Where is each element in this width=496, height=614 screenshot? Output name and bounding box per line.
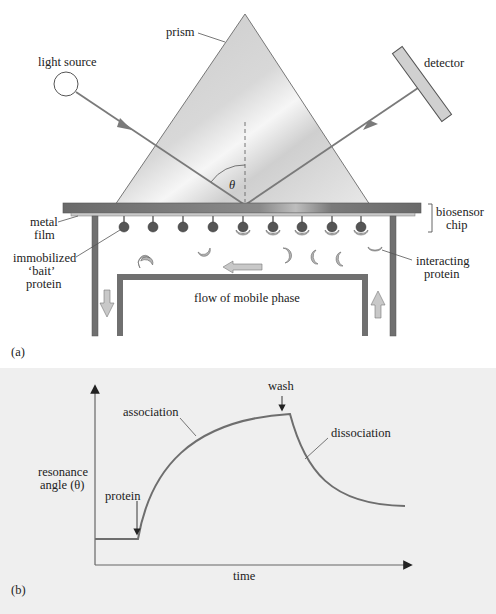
metal-film-leader bbox=[58, 216, 78, 222]
biosensor-chip-label-1: biosensor bbox=[436, 205, 485, 219]
protein-annotation: protein bbox=[105, 489, 141, 503]
bait-label-3: protein bbox=[26, 277, 62, 291]
flow-arrow-up-icon bbox=[371, 291, 385, 318]
prism bbox=[115, 14, 370, 205]
detector-label: detector bbox=[424, 56, 465, 70]
light-source-icon bbox=[54, 72, 78, 96]
panel-b: protein wash association dissociation re… bbox=[0, 368, 496, 614]
metal-film bbox=[71, 213, 415, 216]
reflected-arrow-icon bbox=[363, 120, 378, 130]
flow-arrow-down-icon bbox=[100, 290, 114, 317]
panel-b-label: (b) bbox=[11, 583, 26, 597]
wash-annotation: wash bbox=[268, 379, 294, 393]
theta-label: θ bbox=[229, 178, 235, 192]
prism-label: prism bbox=[166, 25, 195, 39]
bait-proteins bbox=[119, 216, 366, 232]
metal-film-label-2: film bbox=[34, 228, 55, 242]
incident-arrow-icon bbox=[117, 118, 132, 130]
interacting-label-1: interacting bbox=[416, 254, 470, 268]
prism-leader bbox=[198, 33, 225, 42]
light-source-label: light source bbox=[38, 55, 97, 69]
bait-label-1: immobilized bbox=[13, 251, 77, 265]
interacting-leader bbox=[382, 250, 412, 260]
right-wall bbox=[390, 216, 396, 336]
biosensor-chip-label-2: chip bbox=[446, 218, 468, 232]
inner-channel bbox=[120, 277, 365, 336]
panel-a: prism θ light source detector biosensor … bbox=[11, 14, 485, 359]
bait-label-2: ‘bait’ bbox=[28, 264, 55, 278]
y-axis-label-2: angle (θ) bbox=[40, 478, 85, 492]
left-wall bbox=[92, 216, 98, 336]
panel-a-label: (a) bbox=[11, 345, 25, 359]
flow-arrow-left-icon bbox=[223, 261, 262, 273]
flow-label: flow of mobile phase bbox=[194, 291, 300, 305]
biosensor-bracket bbox=[428, 204, 432, 232]
metal-film-label-1: metal bbox=[30, 215, 58, 229]
interacting-label-2: protein bbox=[424, 267, 460, 281]
spr-figure: prism θ light source detector biosensor … bbox=[0, 0, 496, 614]
dissociation-annotation: dissociation bbox=[331, 426, 391, 440]
association-annotation: association bbox=[123, 405, 179, 419]
x-axis-label: time bbox=[233, 569, 256, 583]
chip-top-plate bbox=[63, 203, 421, 213]
y-axis-label-1: resonance bbox=[38, 465, 88, 479]
